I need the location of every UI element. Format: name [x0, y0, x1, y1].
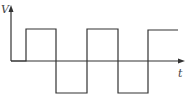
- x-axis-arrow-icon: [178, 59, 185, 64]
- y-axis-label: V: [1, 3, 10, 16]
- x-axis: [11, 59, 185, 64]
- y-axis-arrow-icon: [9, 5, 14, 12]
- x-axis-label: t: [178, 67, 183, 80]
- y-axis: [9, 5, 14, 61]
- square-wave-diagram: V t: [0, 0, 195, 101]
